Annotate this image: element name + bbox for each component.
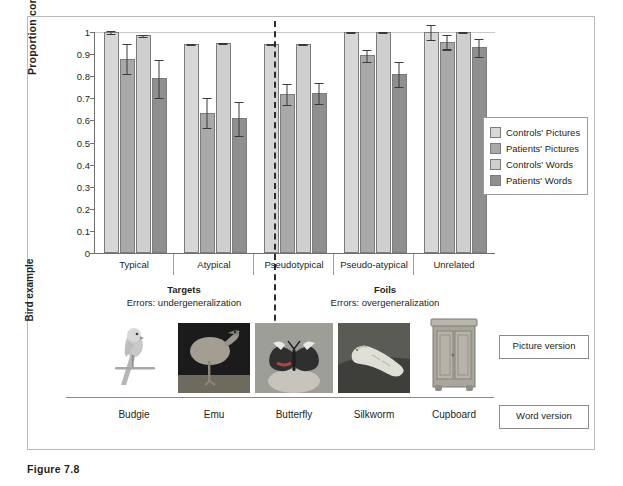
- bar: [360, 55, 375, 253]
- error-bar: [427, 25, 436, 40]
- error-bar: [203, 98, 212, 129]
- error-bar: [395, 62, 404, 89]
- bar-chart: Proportion correct 00.10.20.30.40.50.60.…: [28, 17, 596, 277]
- y-tick-mark: [90, 32, 94, 33]
- example-divider-line: [66, 397, 494, 398]
- example-image: [174, 317, 254, 393]
- error-bar: [155, 60, 164, 100]
- bar: [376, 32, 391, 253]
- y-tick-label: 0.8: [56, 71, 90, 82]
- legend-label: Patients' Words: [506, 175, 572, 186]
- legend-label: Controls' Words: [506, 159, 573, 170]
- example-image: [94, 317, 174, 393]
- condition-targets: Targets Errors: undergeneralization: [94, 283, 274, 309]
- bar: [344, 32, 359, 253]
- bar: [104, 32, 119, 253]
- bar-group: [335, 32, 415, 253]
- figure-frame: Proportion correct 00.10.20.30.40.50.60.…: [27, 16, 595, 450]
- bar: [232, 118, 247, 253]
- example-panel: Bird example BudgieEmuButterflySilkwormC…: [28, 317, 596, 451]
- bar: [312, 93, 327, 253]
- bar: [424, 32, 439, 253]
- y-tick-label: 0.2: [56, 203, 90, 214]
- chart-legend: Controls' PicturesPatients' PicturesCont…: [483, 117, 588, 195]
- y-axis-ticks: 00.10.20.30.40.50.60.70.80.91: [56, 17, 90, 257]
- x-axis-category: Pseudo-atypical: [334, 253, 414, 277]
- bar: [216, 43, 231, 253]
- error-bar: [123, 44, 132, 75]
- error-bar: [219, 43, 228, 46]
- picture-version-box: Picture version: [499, 335, 589, 359]
- x-axis-category: Typical: [94, 253, 174, 277]
- plot-area: [94, 32, 495, 254]
- y-tick-mark: [90, 143, 94, 144]
- bird-example-label: Bird example: [24, 245, 35, 335]
- error-bar: [107, 31, 116, 35]
- bar: [264, 44, 279, 253]
- bar-groups: [95, 32, 495, 253]
- example-word: Cupboard: [414, 409, 494, 433]
- y-tick-mark: [90, 120, 94, 121]
- x-axis-category: Pseudotypical: [254, 253, 334, 277]
- legend-item: Patients' Pictures: [490, 140, 581, 156]
- y-tick-mark: [90, 54, 94, 55]
- example-image: [414, 317, 494, 393]
- y-tick-label: 0.3: [56, 181, 90, 192]
- figure-root: Proportion correct 00.10.20.30.40.50.60.…: [0, 0, 623, 486]
- legend-label: Patients' Pictures: [506, 143, 579, 154]
- error-bar: [315, 83, 324, 105]
- bar: [120, 59, 135, 253]
- example-word-row: BudgieEmuButterflySilkwormCupboard: [94, 409, 494, 433]
- legend-item: Controls' Words: [490, 156, 581, 172]
- example-word: Silkworm: [334, 409, 414, 433]
- error-bar: [283, 84, 292, 106]
- bar: [152, 78, 167, 253]
- error-bar: [299, 44, 308, 47]
- x-axis-category: Atypical: [174, 253, 254, 277]
- bar-group: [175, 32, 255, 253]
- error-bar: [443, 35, 452, 50]
- error-bar: [363, 50, 372, 63]
- condition-foils-title: Foils: [276, 283, 494, 296]
- y-tick-label: 0.6: [56, 115, 90, 126]
- example-word: Emu: [174, 409, 254, 433]
- bar: [392, 74, 407, 253]
- example-picture-row: [94, 317, 494, 393]
- bar-group: [95, 32, 175, 253]
- y-tick-mark: [90, 253, 94, 254]
- condition-foils: Foils Errors: overgeneralization: [276, 283, 494, 309]
- legend-item: Controls' Pictures: [490, 124, 581, 140]
- condition-foils-subtitle: Errors: overgeneralization: [276, 296, 494, 309]
- bar: [296, 44, 311, 253]
- example-word: Butterfly: [254, 409, 334, 433]
- error-bar: [379, 32, 388, 35]
- y-tick-label: 0.5: [56, 137, 90, 148]
- x-axis-category: Unrelated: [414, 253, 494, 277]
- figure-caption: Figure 7.8: [27, 463, 80, 475]
- error-bar: [187, 44, 196, 47]
- error-bar: [459, 32, 468, 35]
- example-image: [254, 317, 334, 393]
- legend-swatch: [490, 175, 501, 186]
- example-word: Budgie: [94, 409, 174, 433]
- y-tick-label: 0.1: [56, 225, 90, 236]
- x-axis-labels: TypicalAtypicalPseudotypicalPseudo-atypi…: [94, 253, 494, 277]
- condition-targets-title: Targets: [94, 283, 274, 296]
- y-tick-label: 0.4: [56, 159, 90, 170]
- y-tick-label: 1: [56, 27, 90, 38]
- y-tick-label: 0.7: [56, 93, 90, 104]
- error-bar: [347, 32, 356, 35]
- legend-item: Patients' Words: [490, 172, 581, 188]
- error-bar: [475, 39, 484, 59]
- word-version-box: Word version: [499, 405, 589, 429]
- bar: [136, 35, 151, 253]
- y-tick-mark: [90, 165, 94, 166]
- error-bar: [139, 35, 148, 39]
- legend-swatch: [490, 143, 501, 154]
- example-image: [334, 317, 414, 393]
- bar: [280, 94, 295, 253]
- bar: [440, 42, 455, 253]
- bar: [200, 113, 215, 253]
- y-tick-label: 0: [56, 248, 90, 259]
- bar-group: [255, 32, 335, 253]
